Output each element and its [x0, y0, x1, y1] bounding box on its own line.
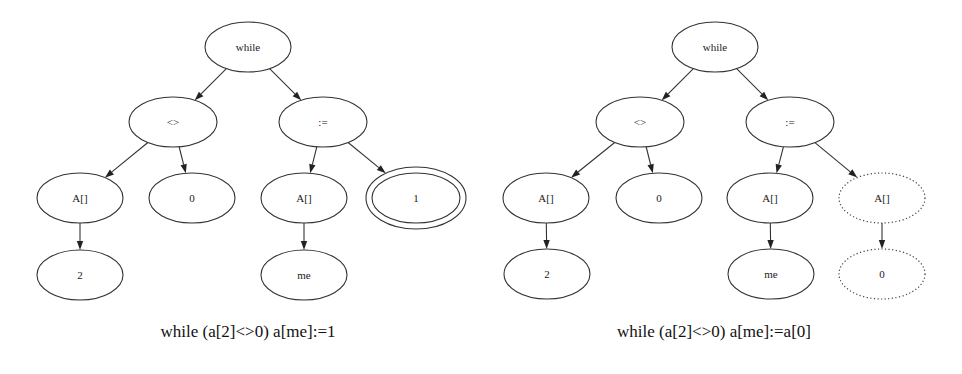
arrowhead-icon — [879, 240, 885, 249]
arrowhead-icon — [309, 164, 315, 174]
node-label: <> — [634, 116, 646, 128]
node-label: me — [297, 269, 311, 281]
tree-node-arr3: A[] — [839, 173, 925, 223]
node-label: A[] — [296, 192, 311, 204]
edge-neq-to-zero — [179, 147, 187, 174]
tree-node-arr2: A[] — [727, 173, 813, 223]
right-tree-caption: while (a[2]<>0) a[me]:=a[0] — [617, 322, 811, 341]
node-label: 1 — [413, 192, 419, 204]
node-label: while — [236, 41, 261, 53]
edge-arr2-to-me — [301, 223, 307, 250]
tree-node-me: me — [261, 250, 347, 300]
arrowhead-icon — [648, 164, 654, 174]
edge-arr2-to-me — [767, 223, 773, 249]
tree-node-zero2: 0 — [839, 249, 925, 299]
edge-line — [779, 147, 784, 165]
edge-while-to-assign — [737, 69, 769, 101]
node-label: 0 — [656, 192, 662, 204]
edge-line — [815, 143, 850, 172]
edge-line — [179, 147, 183, 165]
tree-node-neq: <> — [129, 97, 217, 147]
tree-node-two: 2 — [37, 250, 123, 300]
arrowhead-icon — [767, 240, 773, 249]
edge-assign-to-arr2 — [776, 147, 784, 174]
edge-line — [348, 143, 379, 168]
edge-arr1-to-two — [77, 223, 83, 250]
edge-line — [270, 69, 295, 94]
node-label: := — [785, 116, 794, 128]
edge-neq-to-zero — [646, 147, 654, 174]
tree-node-arr1: A[] — [503, 173, 589, 223]
edge-line — [112, 143, 148, 172]
node-label: while — [703, 41, 728, 53]
arrowhead-icon — [571, 170, 580, 178]
arrowhead-icon — [776, 164, 782, 174]
edge-line — [312, 147, 316, 165]
edge-while-to-neq — [195, 69, 227, 101]
edge-line — [201, 69, 226, 94]
edge-while-to-neq — [662, 69, 694, 101]
node-label: := — [318, 116, 327, 128]
arrowhead-icon — [77, 241, 83, 250]
node-label: A[] — [72, 192, 87, 204]
edge-line — [737, 69, 762, 94]
node-label: A[] — [762, 192, 777, 204]
edge-line — [646, 147, 650, 165]
edge-assign-to-one — [348, 143, 386, 174]
node-label: A[] — [874, 192, 889, 204]
node-label: 0 — [189, 192, 195, 204]
tree-node-zero: 0 — [616, 173, 702, 223]
tree-node-one: 1 — [366, 167, 466, 229]
right-syntax-tree: while<>:=A[]0A[]A[]2me0 — [503, 22, 925, 299]
edge-arr3-to-zero2 — [879, 223, 885, 249]
tree-node-me: me — [728, 249, 814, 299]
arrowhead-icon — [543, 240, 549, 249]
left-tree-caption: while (a[2]<>0) a[me]:=1 — [160, 322, 335, 341]
node-label: <> — [167, 116, 179, 128]
edge-neq-to-arr1 — [571, 142, 615, 177]
tree-node-assign: := — [746, 97, 834, 147]
edge-assign-to-arr2 — [309, 147, 317, 174]
tree-node-arr1: A[] — [37, 173, 123, 223]
edge-assign-to-arr3 — [815, 143, 857, 178]
tree-node-two: 2 — [504, 249, 590, 299]
tree-node-while: while — [205, 22, 291, 72]
node-label: 2 — [77, 269, 83, 281]
arrowhead-icon — [301, 241, 307, 250]
ast-comparison-diagram: while<>:=A[]0A[]12me while<>:=A[]0A[]A[]… — [0, 0, 962, 374]
tree-node-while: while — [672, 22, 758, 72]
edge-while-to-assign — [270, 69, 302, 101]
arrowhead-icon — [181, 164, 187, 174]
edge-line — [578, 142, 615, 172]
node-label: A[] — [538, 192, 553, 204]
tree-node-neq: <> — [596, 97, 684, 147]
edge-line — [668, 69, 693, 94]
node-label: me — [764, 268, 778, 280]
node-label: 2 — [544, 268, 550, 280]
edge-neq-to-arr1 — [105, 143, 148, 178]
tree-node-arr2: A[] — [261, 173, 347, 223]
tree-node-assign: := — [279, 97, 367, 147]
tree-node-zero: 0 — [149, 173, 235, 223]
edge-arr1-to-two — [543, 223, 549, 249]
left-syntax-tree: while<>:=A[]0A[]12me — [37, 22, 466, 300]
node-label: 0 — [879, 268, 885, 280]
